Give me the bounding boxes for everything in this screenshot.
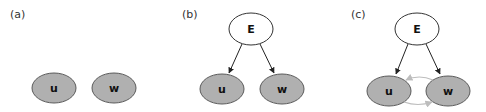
edge-E-to-u [396,44,408,74]
node-u-observed: u [367,76,411,106]
node-label-E: E [413,23,421,36]
node-w-observed: w [260,74,304,104]
diagram-canvas: (a) u w (b) E u w (c) E [0,0,486,112]
node-u-observed: u [32,73,76,103]
edge-E-to-w [426,44,440,74]
node-u-observed: u [200,74,244,104]
node-w-observed: w [426,76,470,106]
edge-E-to-w [260,44,274,73]
node-label-w: w [109,82,119,95]
panel-b: (b) E u w [182,8,304,104]
node-label-u: u [385,85,393,98]
node-label-u: u [218,83,226,96]
node-label-w: w [443,85,453,98]
node-E-latent: E [395,13,439,45]
panel-label-a: (a) [10,8,25,21]
panel-label-b: (b) [182,8,198,21]
edge-w-to-u-light [406,77,433,80]
node-label-E: E [247,23,255,36]
edge-u-to-w-light [404,102,432,105]
panel-a: (a) u w [10,8,136,103]
panel-label-c: (c) [351,8,366,21]
node-E-latent: E [229,13,273,45]
node-w-observed: w [92,73,136,103]
panel-c: (c) E u w [351,8,470,106]
node-label-w: w [277,83,287,96]
node-label-u: u [50,82,58,95]
edge-E-to-u [229,44,242,73]
